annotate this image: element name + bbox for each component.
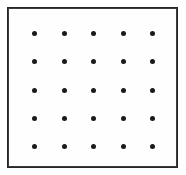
dot-grid-figure — [0, 0, 186, 175]
grid-dot-r2-c1 — [32, 59, 37, 64]
grid-dot-r5-c3 — [91, 144, 96, 149]
grid-dot-r5-c5 — [150, 144, 155, 149]
grid-dot-r1-c1 — [32, 31, 37, 36]
grid-dot-r2-c4 — [121, 59, 126, 64]
dot-layer — [0, 0, 186, 175]
grid-dot-r4-c4 — [121, 116, 126, 121]
grid-dot-r2-c2 — [62, 59, 67, 64]
grid-dot-r3-c1 — [32, 88, 37, 93]
grid-dot-r2-c5 — [150, 59, 155, 64]
grid-dot-r5-c4 — [121, 144, 126, 149]
grid-dot-r4-c1 — [32, 116, 37, 121]
grid-dot-r4-c3 — [91, 116, 96, 121]
grid-dot-r5-c1 — [32, 144, 37, 149]
grid-dot-r3-c5 — [150, 88, 155, 93]
grid-dot-r1-c2 — [62, 31, 67, 36]
grid-dot-r3-c4 — [121, 88, 126, 93]
grid-dot-r4-c5 — [150, 116, 155, 121]
grid-dot-r3-c2 — [62, 88, 67, 93]
grid-dot-r4-c2 — [62, 116, 67, 121]
grid-dot-r2-c3 — [91, 59, 96, 64]
grid-dot-r3-c3 — [91, 88, 96, 93]
grid-dot-r1-c5 — [150, 31, 155, 36]
grid-dot-r1-c4 — [121, 31, 126, 36]
grid-dot-r1-c3 — [91, 31, 96, 36]
grid-dot-r5-c2 — [62, 144, 67, 149]
